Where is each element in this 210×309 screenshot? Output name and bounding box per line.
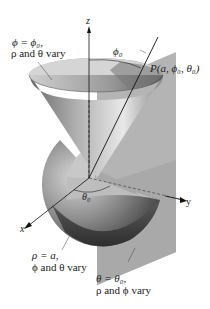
z-axis-label: z xyxy=(85,15,90,26)
cone-label-line2: ρ and θ vary xyxy=(11,47,66,59)
point-P-label: P(a, ϕ₀, θ₀) xyxy=(149,62,200,75)
theta0-label: θ₀ xyxy=(82,191,91,202)
point-leader-line xyxy=(140,50,146,53)
y-axis-label: y xyxy=(186,196,191,207)
spherical-coordinates-diagram: z y x ϕ = ϕ₀, ρ and θ vary ϕ₀ P(a, ϕ₀, θ… xyxy=(0,0,210,309)
plane-label-line2: ρ and ϕ vary xyxy=(96,284,151,296)
sphere-leader-line xyxy=(62,233,71,250)
sphere-label-line1: ρ = a, xyxy=(31,249,59,261)
phi0-label: ϕ₀ xyxy=(113,45,123,57)
x-axis-label: x xyxy=(19,223,25,234)
plane-label-line1: θ = θ₀, xyxy=(96,272,127,284)
sphere-label-line2: ϕ and θ vary xyxy=(32,261,87,273)
